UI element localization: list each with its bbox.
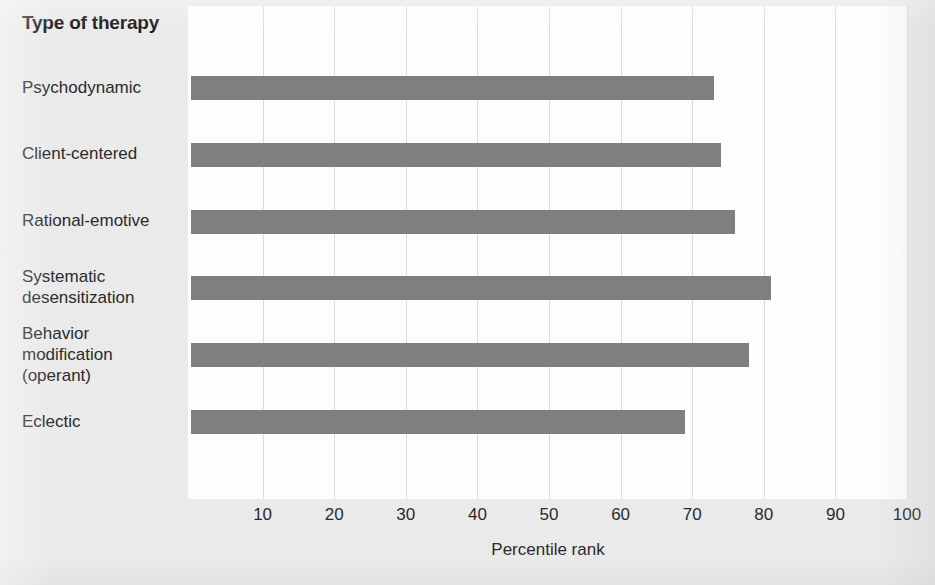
x-tick-label: 90	[826, 505, 845, 525]
bar-series	[191, 6, 908, 499]
x-tick-label: 40	[468, 505, 487, 525]
x-tick-label: 60	[611, 505, 630, 525]
x-tick-label: 50	[540, 505, 559, 525]
bar	[191, 76, 714, 100]
y-axis-label: Client-centered	[22, 143, 182, 164]
x-tick-label: 80	[754, 505, 773, 525]
x-tick-label: 10	[253, 505, 272, 525]
y-axis-category-labels: PsychodynamicClient-centeredRational-emo…	[22, 6, 182, 499]
y-axis-label: Psychodynamic	[22, 77, 182, 98]
x-tick-label: 70	[683, 505, 702, 525]
y-axis-label: Rational-emotive	[22, 210, 182, 231]
chart-figure: Type of therapy PsychodynamicClient-cent…	[0, 0, 935, 585]
y-axis-label: Eclectic	[22, 411, 182, 432]
x-axis-title: Percentile rank	[188, 540, 908, 560]
bar	[191, 410, 685, 434]
plot-area	[188, 6, 908, 499]
x-tick-label: 100	[893, 505, 921, 525]
bar	[191, 276, 771, 300]
bar	[191, 210, 735, 234]
bar	[191, 343, 749, 367]
bar	[191, 143, 721, 167]
x-tick-label: 20	[325, 505, 344, 525]
x-tick-label: 30	[396, 505, 415, 525]
x-axis-tick-labels: 102030405060708090100	[188, 505, 908, 533]
y-axis-label: Behavior modification (operant)	[22, 323, 182, 386]
y-axis-label: Systematic desensitization	[22, 266, 182, 308]
